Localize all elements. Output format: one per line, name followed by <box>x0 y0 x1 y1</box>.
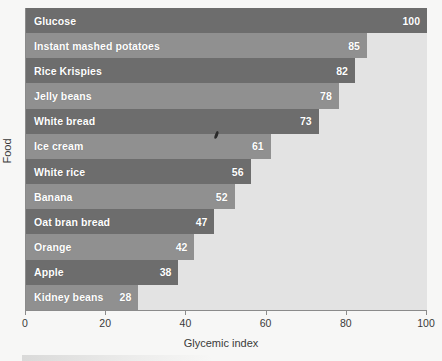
bar: White bread73 <box>26 109 319 134</box>
bar-category-label: Rice Krispies <box>34 65 102 77</box>
bar: Rice Krispies82 <box>26 58 355 83</box>
bar-row: Banana52 <box>26 184 427 209</box>
bar-row: Glucose100 <box>26 8 427 33</box>
x-axis-tick-label: 40 <box>180 317 192 329</box>
x-axis-tick <box>25 310 26 315</box>
x-axis-tick-label: 20 <box>99 317 111 329</box>
bar-row: Apple38 <box>26 260 427 285</box>
x-axis-title: Glycemic index <box>0 337 442 349</box>
bar: Kidney beans28 <box>26 285 138 310</box>
bar-value-label: 85 <box>348 40 360 52</box>
bar-row: White bread73 <box>26 109 427 134</box>
bar: Banana52 <box>26 184 235 209</box>
x-axis-tick <box>105 310 106 315</box>
x-axis-tick <box>185 310 186 315</box>
bar-value-label: 56 <box>232 166 244 178</box>
bar-value-label: 61 <box>252 140 264 152</box>
x-axis-tick-label: 80 <box>340 317 352 329</box>
bar-value-label: 82 <box>336 65 348 77</box>
bar-value-label: 38 <box>160 266 172 278</box>
plot-area: Glucose100Instant mashed potatoes85Rice … <box>25 8 427 310</box>
bar: Apple38 <box>26 260 178 285</box>
bar-category-label: Apple <box>34 266 64 278</box>
bar: Instant mashed potatoes85 <box>26 33 367 58</box>
bar-row: Ice cream61 <box>26 134 427 159</box>
bar: Glucose100 <box>26 8 427 33</box>
bar: Ice cream61 <box>26 134 271 159</box>
x-axis-tick <box>266 310 267 315</box>
bar-value-label: 100 <box>402 15 420 27</box>
bar-value-label: 73 <box>300 115 312 127</box>
y-axis-title: Food <box>1 126 13 176</box>
bar-row: Jelly beans78 <box>26 83 427 108</box>
bar: Oat bran bread47 <box>26 209 214 234</box>
x-axis-tick <box>426 310 427 315</box>
x-axis-tick <box>346 310 347 315</box>
bar-value-label: 47 <box>196 216 208 228</box>
page-edge-smudge <box>22 355 212 361</box>
bar-category-label: Oat bran bread <box>34 216 110 228</box>
bar-row: White rice56 <box>26 159 427 184</box>
chart-page: Glucose100Instant mashed potatoes85Rice … <box>0 0 442 361</box>
x-axis-tick-label: 100 <box>417 317 435 329</box>
bar: Orange42 <box>26 234 194 259</box>
bar-category-label: Ice cream <box>34 140 83 152</box>
bar-row: Rice Krispies82 <box>26 58 427 83</box>
bar-category-label: Instant mashed potatoes <box>34 40 160 52</box>
bar-row: Kidney beans28 <box>26 285 427 310</box>
bar: Jelly beans78 <box>26 83 339 108</box>
x-axis-line <box>25 310 427 311</box>
bar-category-label: Jelly beans <box>34 90 92 102</box>
bar-row: Instant mashed potatoes85 <box>26 33 427 58</box>
bar-value-label: 28 <box>120 291 132 303</box>
bar-category-label: White bread <box>34 115 95 127</box>
bar-category-label: White rice <box>34 166 85 178</box>
x-axis-tick-label: 0 <box>22 317 28 329</box>
bar-category-label: Orange <box>34 241 71 253</box>
bar-row: Oat bran bread47 <box>26 209 427 234</box>
bar: White rice56 <box>26 159 251 184</box>
bar-value-label: 52 <box>216 191 228 203</box>
bar-category-label: Banana <box>34 191 73 203</box>
x-axis-tick-label: 60 <box>260 317 272 329</box>
bar-category-label: Kidney beans <box>34 291 103 303</box>
bar-value-label: 78 <box>320 90 332 102</box>
bar-row: Orange42 <box>26 234 427 259</box>
bar-category-label: Glucose <box>34 15 76 27</box>
bar-value-label: 42 <box>176 241 188 253</box>
